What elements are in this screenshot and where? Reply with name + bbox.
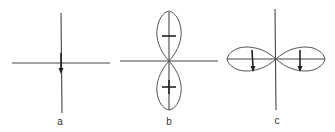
panel-label-b: b bbox=[166, 116, 172, 127]
panel-label-a: a bbox=[57, 116, 63, 127]
down-arrow-icon-right bbox=[298, 50, 303, 72]
panel-c: c bbox=[227, 9, 325, 126]
panel-b: b bbox=[120, 11, 218, 127]
panel-a: a bbox=[12, 13, 110, 127]
figure: a b c bbox=[0, 0, 335, 132]
panel-label-c: c bbox=[275, 115, 280, 126]
plus-sign-icon bbox=[162, 80, 176, 94]
down-arrow-icon-left bbox=[251, 50, 256, 72]
